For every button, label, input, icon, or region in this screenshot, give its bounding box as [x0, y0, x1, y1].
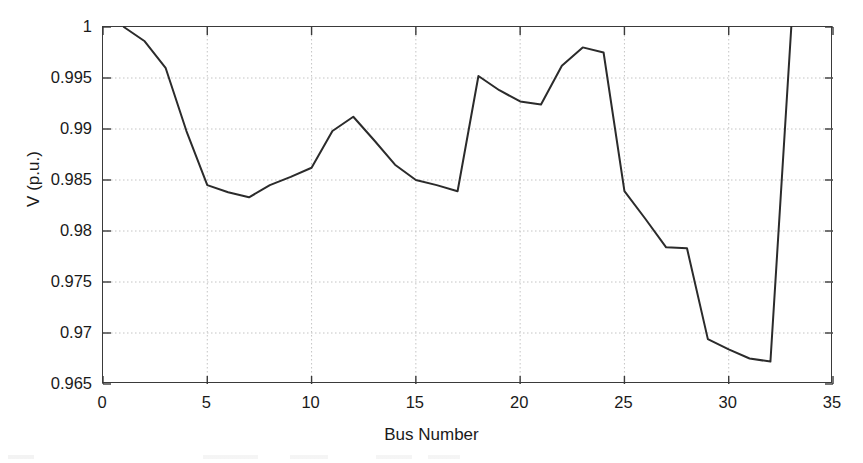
x-axis-tick-label: 15: [406, 394, 424, 411]
y-axis-tick-label: 0.97: [60, 324, 92, 341]
y-axis-tick-label: 0.975: [51, 273, 92, 290]
x-axis-tick-label: 25: [614, 394, 632, 411]
x-axis-tick-label: 10: [301, 394, 319, 411]
y-axis-tick-label: 0.98: [60, 222, 92, 239]
grid-lines: [103, 27, 833, 384]
chart-figure: V (p.u.) 0.9650.970.9750.980.9850.990.99…: [0, 0, 863, 463]
x-axis-tick-label: 5: [202, 394, 211, 411]
y-axis-tick-label: 0.99: [60, 120, 92, 137]
x-axis-tick-label: 0: [97, 394, 106, 411]
x-axis-tick-label: 35: [823, 394, 841, 411]
y-axis-tick-label: 0.995: [51, 69, 92, 86]
plot-canvas: [103, 27, 833, 384]
scan-artifact: [8, 455, 468, 459]
x-axis-tick-label: 20: [510, 394, 528, 411]
x-axis-title: Bus Number: [0, 425, 863, 445]
y-axis-title: V (p.u.): [24, 69, 44, 289]
y-axis-tick-label: 0.965: [51, 375, 92, 392]
y-axis-tick-label: 1: [83, 18, 92, 35]
voltage-profile-line: [124, 27, 791, 362]
x-axis-tick-label: 30: [719, 394, 737, 411]
y-axis-tick-label: 0.985: [51, 171, 92, 188]
plot-area: [102, 26, 832, 383]
tick-marks: [103, 27, 833, 384]
